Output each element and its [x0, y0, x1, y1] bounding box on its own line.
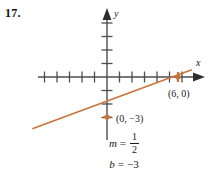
point-marker-y-intercept: [104, 114, 111, 119]
y-axis-label: y: [113, 8, 119, 19]
slope-fraction: 1 2: [130, 132, 139, 155]
slope-variable: m: [109, 138, 117, 149]
y-axis-arrowhead: [103, 8, 112, 20]
slope-equation: m = 1 2: [76, 132, 172, 155]
intercept-equals-sign: =: [118, 159, 124, 170]
slope-denominator: 2: [130, 145, 139, 155]
intercept-variable: b: [109, 159, 115, 170]
x-axis-label: x: [195, 57, 201, 68]
point-label-x-intercept: (6, 0): [168, 88, 190, 100]
intercept-value: −3: [127, 159, 139, 170]
worksheet-problem-figure: 17.: [0, 0, 212, 176]
slope-numerator: 1: [130, 132, 139, 142]
intercept-equation: b = −3: [76, 159, 172, 170]
equation-annotations: m = 1 2 b = −3: [76, 132, 172, 170]
slope-equals-sign: =: [120, 138, 126, 149]
x-axis-arrowhead: [193, 73, 205, 82]
point-label-y-intercept: (0, −3): [116, 113, 143, 125]
